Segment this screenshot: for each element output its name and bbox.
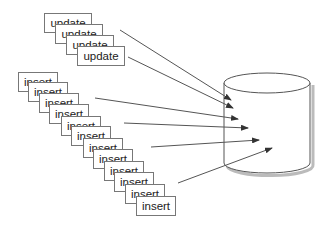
arrow — [120, 30, 231, 100]
diagram-canvas: updateupdateupdateupdateinsertinsertinse… — [0, 0, 329, 225]
database-cylinder-icon — [224, 73, 313, 176]
update-card: update — [77, 46, 125, 66]
arrow — [95, 98, 238, 119]
arrow — [128, 57, 233, 108]
insert-card: insert — [136, 196, 176, 216]
